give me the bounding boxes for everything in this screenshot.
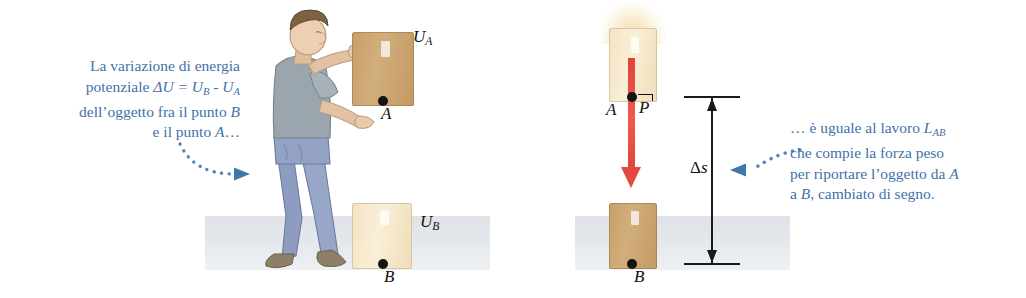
delta-symbol: Δ (690, 158, 701, 177)
label-delta-s: Δs (690, 158, 708, 178)
annotation-right-line-2: che compie la forza peso (790, 143, 1022, 164)
label-point-b-right: B (634, 267, 644, 287)
label-u-a: UA (413, 27, 432, 48)
label-force-p: P (639, 98, 649, 118)
delta-s-dimension-line (711, 96, 713, 264)
label-u-a-subscript: A (425, 35, 432, 48)
annotation-right-line-1: … è uguale al lavoro LAB (790, 118, 1022, 143)
vector-arrow-over-p: P (639, 98, 649, 118)
delta-s-arrowhead-bottom (707, 250, 717, 263)
label-point-a-right: A (606, 100, 616, 120)
annotation-right-line-4: a B, cambiato di segno. (790, 184, 1022, 205)
ground-strip-right (575, 216, 790, 270)
label-u-b: UB (420, 212, 439, 233)
annotation-left-line-1: La variazione di energia (14, 56, 240, 77)
point-marker-a-right (627, 92, 637, 102)
delta-s-tick-bottom (684, 263, 740, 265)
label-point-a-left: A (381, 104, 391, 124)
annotation-text-right: … è uguale al lavoro LAB che compie la f… (790, 118, 1022, 205)
held-box-at-A (352, 32, 414, 106)
connector-arrow-left (176, 140, 256, 186)
annotation-left-line-4: e il punto A… (14, 122, 240, 143)
annotation-left-line-2: potenziale ΔU = UB - UA (14, 77, 240, 102)
weight-force-arrow (628, 58, 635, 168)
physics-figure-potential-energy: UA UB A B A B P Δs La variazione di ener… (0, 0, 1026, 298)
annotation-left-line-3: dell’oggetto fra il punto B (14, 102, 240, 123)
annotation-text-left: La variazione di energia potenziale ΔU =… (14, 56, 240, 143)
label-u-b-subscript: B (432, 220, 439, 233)
label-point-b-left: B (384, 267, 394, 287)
annotation-right-line-3: per riportare l’oggetto da A (790, 164, 1022, 185)
delta-s-arrowhead-top (707, 98, 717, 111)
delta-s-variable: s (701, 158, 708, 177)
